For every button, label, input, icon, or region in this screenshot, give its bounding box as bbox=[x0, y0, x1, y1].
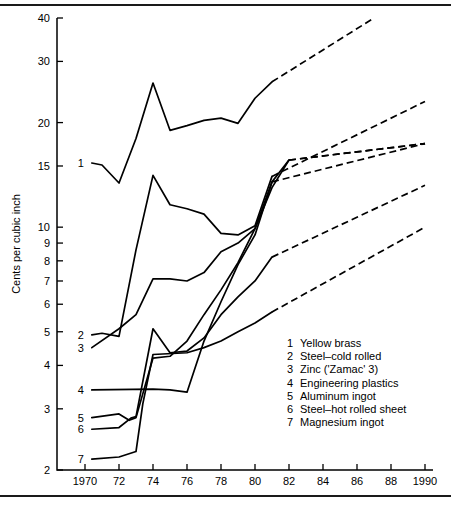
legend: 1Yellow brass2Steel–cold rolled3Zinc ('Z… bbox=[287, 337, 406, 428]
legend-label-3: Zinc ('Zamac' 3) bbox=[300, 363, 378, 375]
legend-label-2: Steel–cold rolled bbox=[300, 350, 381, 362]
legend-number-4: 4 bbox=[287, 377, 293, 389]
x-tick-label: 84 bbox=[317, 475, 329, 487]
series-7: 7 bbox=[78, 227, 425, 465]
legend-label-5: Aluminum ingot bbox=[300, 390, 376, 402]
series-projection-5 bbox=[272, 144, 425, 182]
y-tick-label: 2 bbox=[44, 464, 50, 476]
series-projection-6 bbox=[272, 185, 425, 257]
x-tick-label: 74 bbox=[147, 475, 159, 487]
y-tick-label: 40 bbox=[38, 12, 50, 24]
chart-page: 403020151098765432Cents per cubic inch19… bbox=[0, 0, 451, 509]
series-label-4: 4 bbox=[78, 384, 84, 396]
series-label-1: 1 bbox=[78, 157, 84, 169]
legend-number-5: 5 bbox=[287, 390, 293, 402]
x-tick-label: 1990 bbox=[413, 475, 437, 487]
x-axis-ticks: 19707274767880828486881990 bbox=[73, 464, 437, 487]
legend-number-1: 1 bbox=[287, 337, 293, 349]
y-tick-label: 8 bbox=[44, 255, 50, 267]
series-line-6 bbox=[92, 257, 272, 429]
legend-number-6: 6 bbox=[287, 403, 293, 415]
y-axis-ticks: 403020151098765432 bbox=[38, 12, 63, 476]
y-tick-label: 3 bbox=[44, 403, 50, 415]
y-tick-label: 5 bbox=[44, 326, 50, 338]
y-tick-label: 10 bbox=[38, 221, 50, 233]
series-3: 3 bbox=[78, 144, 425, 354]
series-label-3: 3 bbox=[78, 342, 84, 354]
y-axis-title: Cents per cubic inch bbox=[10, 194, 22, 294]
series-1: 1 bbox=[78, 18, 374, 183]
series-label-7: 7 bbox=[78, 453, 84, 465]
x-tick-label: 86 bbox=[351, 475, 363, 487]
y-tick-label: 7 bbox=[44, 275, 50, 287]
legend-label-6: Steel–hot rolled sheet bbox=[300, 403, 406, 415]
y-tick-label: 30 bbox=[38, 55, 50, 67]
y-tick-label: 4 bbox=[44, 359, 50, 371]
series-projection-1 bbox=[272, 18, 374, 82]
x-tick-label: 76 bbox=[181, 475, 193, 487]
series-label-6: 6 bbox=[78, 423, 84, 435]
legend-number-7: 7 bbox=[287, 416, 293, 428]
x-tick-label: 88 bbox=[385, 475, 397, 487]
series-projection-2 bbox=[272, 102, 425, 177]
series-label-5: 5 bbox=[78, 412, 84, 424]
y-tick-label: 15 bbox=[38, 160, 50, 172]
legend-label-7: Magnesium ingot bbox=[300, 416, 384, 428]
legend-label-1: Yellow brass bbox=[300, 337, 362, 349]
price-trend-chart: 403020151098765432Cents per cubic inch19… bbox=[0, 0, 451, 509]
legend-number-3: 3 bbox=[287, 363, 293, 375]
x-tick-label: 82 bbox=[283, 475, 295, 487]
legend-number-2: 2 bbox=[287, 350, 293, 362]
series-label-2: 2 bbox=[78, 329, 84, 341]
series-projection-7 bbox=[272, 227, 425, 312]
series-line-2 bbox=[92, 175, 272, 336]
x-tick-label: 72 bbox=[113, 475, 125, 487]
x-tick-label: 80 bbox=[249, 475, 261, 487]
series-projection-4 bbox=[289, 144, 425, 160]
series-2: 2 bbox=[78, 102, 425, 341]
y-tick-label: 6 bbox=[44, 298, 50, 310]
y-tick-label: 9 bbox=[44, 237, 50, 249]
legend-label-4: Engineering plastics bbox=[300, 377, 399, 389]
series-line-5 bbox=[92, 182, 272, 420]
y-tick-label: 20 bbox=[38, 117, 50, 129]
x-tick-label: 78 bbox=[215, 475, 227, 487]
x-tick-label: 1970 bbox=[73, 475, 97, 487]
series-line-1 bbox=[92, 82, 272, 183]
